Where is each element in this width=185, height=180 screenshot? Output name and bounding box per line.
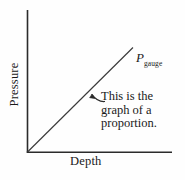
x-axis-label: Depth xyxy=(70,154,102,169)
annotation-line-2: graph of a xyxy=(101,104,183,118)
annotation-line-3: proportion. xyxy=(101,117,183,131)
pressure-depth-figure: Pressure Depth Pgauge This is the graph … xyxy=(0,0,185,180)
curve-label-subscript: gauge xyxy=(144,59,162,68)
annotation-text: This is the graph of a proportion. xyxy=(101,90,183,131)
curve-label-p-gauge: Pgauge xyxy=(136,50,162,68)
annotation-line-1: This is the xyxy=(101,90,183,104)
curve-label-symbol: P xyxy=(136,50,144,65)
y-axis-label: Pressure xyxy=(7,45,22,125)
